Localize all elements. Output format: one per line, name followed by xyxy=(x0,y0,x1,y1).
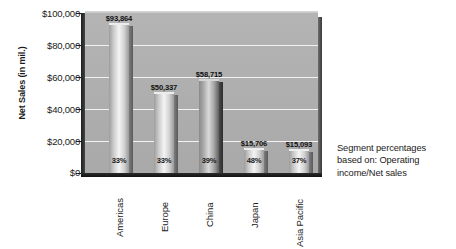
y-tick-label: $80,000 xyxy=(18,40,80,51)
x-tick-label-asia-pacific: Asia Pacific xyxy=(294,199,305,247)
annotation-line-2: based on: Operating xyxy=(337,154,455,166)
x-axis-line xyxy=(81,173,322,177)
bar-value-china: $58,715 xyxy=(179,70,239,79)
x-tick-label-japan: Japan xyxy=(249,203,260,228)
bar-asia-pacific-top xyxy=(289,149,309,151)
plot-right-wall xyxy=(318,17,322,177)
bar-percent-europe: 33% xyxy=(149,156,179,165)
y-axis-tick-labels: $100,000 $80,000 $60,000 $40,000 $20,000… xyxy=(18,0,80,180)
chart-annotation: Segment percentages based on: Operating … xyxy=(337,142,455,179)
bar-chart: Net Sales (in mil.) $100,000 $80,000 $60… xyxy=(0,0,456,249)
bar-americas-side xyxy=(129,26,133,173)
x-tick-label-europe: Europe xyxy=(159,202,170,232)
annotation-line-1: Segment percentages xyxy=(337,142,455,154)
x-tick-label-americas: Americas xyxy=(114,198,125,237)
bar-percent-americas: 33% xyxy=(104,156,134,165)
x-tick-label-china: China xyxy=(204,203,215,227)
bar-value-europe: $50,337 xyxy=(134,83,194,92)
bar-percent-asia-pacific: 37% xyxy=(284,156,314,165)
bar-americas-top xyxy=(109,23,129,25)
y-tick-label: $0 xyxy=(18,167,80,178)
bar-value-asia-pacific: $15,093 xyxy=(269,140,329,149)
annotation-line-3: income/Net sales xyxy=(337,167,455,179)
plot-area: $93,864 $50,337 $58,715 $15,706 $15,093 … xyxy=(85,13,318,173)
bar-americas xyxy=(109,23,129,173)
y-tick-label: $40,000 xyxy=(18,104,80,115)
y-tick-label: $100,000 xyxy=(18,8,80,19)
bar-value-americas: $93,864 xyxy=(89,14,149,23)
bar-europe-top xyxy=(154,92,174,94)
y-tick-label: $60,000 xyxy=(18,72,80,83)
bar-china-top xyxy=(199,79,219,81)
bar-percent-china: 39% xyxy=(194,156,224,165)
y-tick-label: $20,000 xyxy=(18,136,80,147)
bar-percent-japan: 48% xyxy=(239,156,269,165)
bar-japan-top xyxy=(244,148,264,150)
